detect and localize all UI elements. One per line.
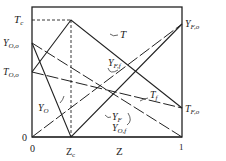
axis-label-Z: Z	[116, 145, 123, 157]
curve-T	[32, 20, 182, 108]
label-Tf: Tf	[150, 89, 159, 102]
leader-YO	[60, 96, 64, 103]
tick-0: 0	[30, 143, 35, 154]
label-Tc: Tc	[14, 13, 24, 27]
label-YOo: YO,o	[3, 37, 19, 50]
plot-frame	[32, 7, 182, 137]
tick-1: 1	[179, 142, 184, 152]
flame-structure-diagram: Tc YO,o TO,o 0 YF,o TF,o T YF,f Tf YO YF…	[0, 0, 226, 161]
curve-YFf	[32, 24, 182, 137]
label-TOo: TO,o	[3, 66, 19, 79]
leader-YF	[105, 115, 111, 118]
label-TFo: TF,o	[185, 103, 200, 116]
leader-YOf	[127, 113, 130, 125]
label-zero-y: 0	[22, 132, 27, 143]
label-YFo: YF,o	[185, 18, 200, 31]
leader-T	[110, 34, 118, 36]
label-YO: YO	[38, 102, 49, 115]
tick-Zc: Zc	[66, 146, 75, 159]
label-T: T	[120, 28, 127, 40]
